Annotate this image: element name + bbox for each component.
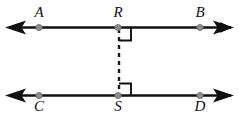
point-A xyxy=(36,24,42,30)
right-angle-mark-at-R xyxy=(119,28,131,41)
geometry-canvas: A R B C S D xyxy=(0,0,239,120)
point-B xyxy=(197,24,203,30)
geometry-figure: A R B C S D xyxy=(0,0,239,120)
point-label-S: S xyxy=(114,98,122,114)
point-R xyxy=(115,24,121,30)
point-label-C: C xyxy=(34,98,45,114)
point-label-R: R xyxy=(112,4,122,20)
point-label-D: D xyxy=(194,98,206,114)
point-label-B: B xyxy=(195,4,204,20)
point-label-A: A xyxy=(33,4,44,20)
